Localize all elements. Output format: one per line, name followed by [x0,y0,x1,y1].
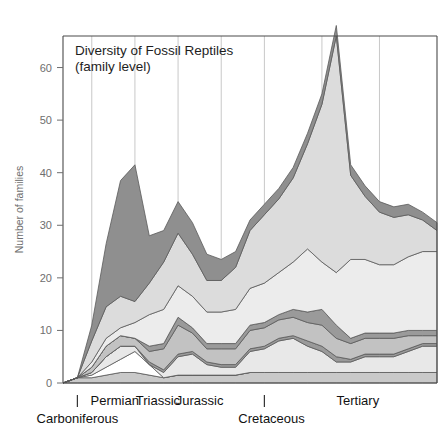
chart-subtitle: (family level) [75,59,151,74]
y-tick-label: 30 [40,219,52,231]
y-tick-group: 0102030405060 [40,62,63,389]
period-label-permian: Permian [91,393,139,408]
y-tick-label: 20 [40,272,52,284]
fossil-reptile-diversity-chart: 0102030405060Number of familiesDiversity… [0,0,448,435]
y-tick-label: 10 [40,324,52,336]
chart-canvas: 0102030405060Number of familiesDiversity… [0,0,448,435]
y-tick-label: 60 [40,62,52,74]
y-tick-label: 0 [46,377,52,389]
period-label-jurassic: Jurassic [176,393,224,408]
y-tick-label: 40 [40,167,52,179]
chart-title: Diversity of Fossil Reptiles [75,43,234,58]
period-label-tertiary: Tertiary [337,393,380,408]
period-label-triassic: Triassic [136,393,181,408]
period-label-cretaceous: Cretaceous [238,411,305,426]
y-tick-label: 50 [40,114,52,126]
period-label-group: CarboniferousPermianTriassicJurassicCret… [37,393,380,426]
area-band-band-1-medium [63,372,437,383]
y-axis-title: Number of families [13,166,25,254]
period-label-carboniferous: Carboniferous [37,411,119,426]
